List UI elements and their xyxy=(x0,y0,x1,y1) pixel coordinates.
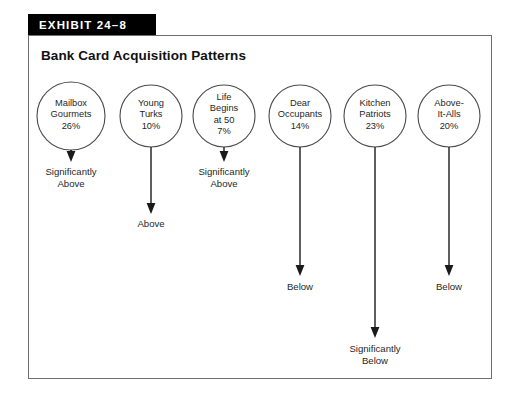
outcome-line: Above xyxy=(174,178,274,190)
outcome-label-above-it-alls: Below xyxy=(399,281,499,293)
outcome-label-life-begins-at-50: Significantly Above xyxy=(174,166,274,190)
exhibit-figure: EXHIBIT 24–8 Bank Card Acquisition Patte… xyxy=(0,0,516,406)
exhibit-panel: Bank Card Acquisition Patterns xyxy=(28,35,492,379)
outcome-line: Above xyxy=(101,218,201,230)
outcome-line: Below xyxy=(399,281,499,293)
exhibit-banner-label: EXHIBIT 24–8 xyxy=(39,19,127,31)
outcome-line: Significantly xyxy=(174,166,274,178)
outcome-label-dear-occupants: Below xyxy=(250,281,350,293)
node-name-line: It-Alls xyxy=(399,109,499,120)
outcome-label-kitchen-patriots: Significantly Below xyxy=(325,343,425,367)
node-label-above-it-alls: Above- It-Alls 20% xyxy=(399,98,499,132)
outcome-line: Below xyxy=(250,281,350,293)
node-name-line: Above- xyxy=(399,98,499,109)
outcome-line: Significantly xyxy=(21,166,121,178)
node-percent: 20% xyxy=(399,121,499,132)
page-title: Bank Card Acquisition Patterns xyxy=(41,48,246,63)
outcome-line: Above xyxy=(21,178,121,190)
outcome-line: Significantly xyxy=(325,343,425,355)
outcome-line: Below xyxy=(325,355,425,367)
outcome-label-mailbox-gourmets: Significantly Above xyxy=(21,166,121,190)
outcome-label-young-turks: Above xyxy=(101,218,201,230)
exhibit-banner: EXHIBIT 24–8 xyxy=(28,14,156,35)
